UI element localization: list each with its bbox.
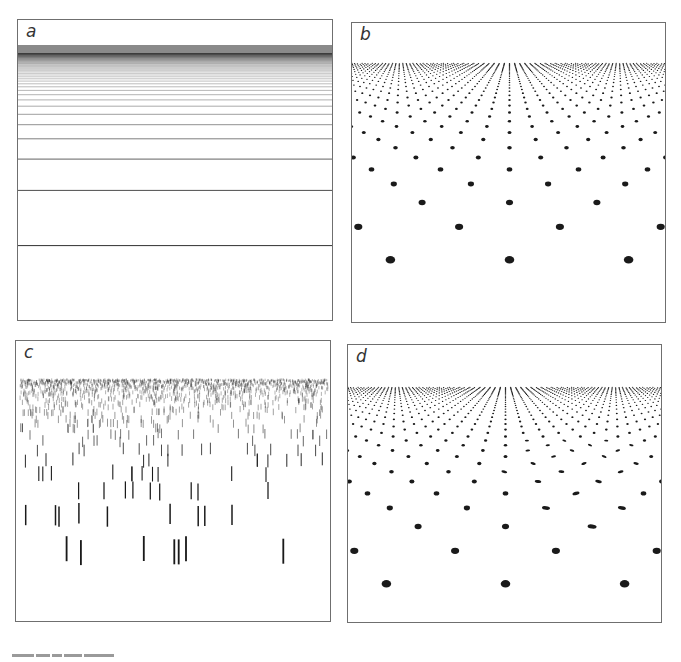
panel-c: c (15, 340, 331, 622)
panel-d: d (347, 344, 662, 623)
panel-b-label: b (360, 24, 371, 44)
panel-a: a (17, 19, 333, 321)
caption-credit (12, 654, 127, 657)
panel-a-label: a (26, 21, 36, 41)
panel-d-label: d (356, 346, 367, 366)
horizontal-lines-gradient (18, 20, 333, 321)
dot-grid-perspective (352, 23, 666, 323)
vertical-dashes-perspective (16, 341, 331, 622)
panel-b: b (351, 22, 666, 323)
dot-grid-perturbed (348, 345, 662, 623)
panel-c-label: c (24, 342, 33, 362)
